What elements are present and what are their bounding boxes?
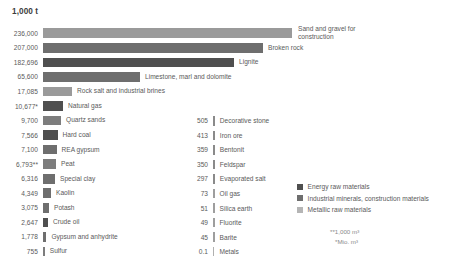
bar xyxy=(43,159,56,169)
bar-value-label: 65,600 xyxy=(0,73,38,80)
bar-value-label: 73 xyxy=(186,190,208,197)
bar-track xyxy=(43,72,140,82)
bar-value-label: 350 xyxy=(186,161,208,168)
bar-category-label: Evaporated salt xyxy=(220,175,266,182)
bar-category-label: Iron ore xyxy=(220,132,243,139)
legend-swatch-icon xyxy=(297,184,303,190)
bar-track xyxy=(43,203,49,213)
bar-row: 182,696Lignite xyxy=(0,55,451,70)
bar-track xyxy=(213,232,215,242)
chart-legend: Energy raw materialsIndustrial minerals,… xyxy=(297,181,429,216)
bar-value-label: 297 xyxy=(186,175,208,182)
bar xyxy=(213,131,215,141)
bar-value-label: 182,696 xyxy=(0,59,38,66)
legend-item: Industrial minerals, construction materi… xyxy=(297,193,429,205)
bar-row: 207,000Broken rock xyxy=(0,41,451,56)
bar-value-label: 3,075 xyxy=(0,204,38,211)
legend-item: Energy raw materials xyxy=(297,181,429,193)
bar-row: 65,600Limestone, marl and dolomite xyxy=(0,70,451,85)
legend-swatch-icon xyxy=(297,207,303,213)
bar-track xyxy=(43,232,46,242)
bar-value-label: 7,100 xyxy=(0,146,38,153)
bar-track xyxy=(43,130,58,140)
bar xyxy=(213,189,215,199)
bar-track xyxy=(213,160,215,170)
bar-row: 350Feldspar xyxy=(186,157,306,172)
bar-track xyxy=(43,28,292,38)
bar-track xyxy=(213,218,215,228)
bar-row: 17,085Rock salt and industrial brines xyxy=(0,84,451,99)
bar-track xyxy=(213,131,215,141)
bar-track xyxy=(213,203,215,213)
bar xyxy=(213,145,215,155)
bar-track xyxy=(43,145,57,155)
bar-row: 413Iron ore xyxy=(186,128,306,143)
bar-category-label: Natural gas xyxy=(68,102,102,110)
legend-label: Energy raw materials xyxy=(308,183,370,190)
bar-category-label: Silica earth xyxy=(220,205,253,212)
chart-container: 1,000 t 236,000Sand and gravel for const… xyxy=(0,0,451,267)
bar xyxy=(213,218,215,228)
bar-row: 49Fluorite xyxy=(186,215,306,230)
bar-category-label: Sulfur xyxy=(50,247,67,255)
bar-value-label: 10,677* xyxy=(0,103,38,110)
bar xyxy=(43,232,46,242)
bar-row: 505Decorative stone xyxy=(186,114,306,129)
bar-track xyxy=(43,218,48,228)
bar-value-label: 755 xyxy=(0,248,38,255)
bar-category-label: Decorative stone xyxy=(220,117,269,124)
bar-value-label: 7,566 xyxy=(0,132,38,139)
bar-value-label: 51 xyxy=(186,205,208,212)
bar xyxy=(43,247,45,257)
bar-track xyxy=(43,159,56,169)
bar-row: 45Barite xyxy=(186,230,306,245)
bar-track xyxy=(43,43,263,53)
bar-category-label: Limestone, marl and dolomite xyxy=(145,73,232,81)
bar-category-label: Sand and gravel for construction xyxy=(298,25,360,41)
bar xyxy=(43,218,48,228)
bar-category-label: Lignite xyxy=(239,58,258,66)
bar xyxy=(213,116,215,126)
bar xyxy=(43,58,234,68)
bar-category-label: Broken rock xyxy=(268,44,303,52)
bar-category-label: Barite xyxy=(220,234,237,241)
chart-unit-title: 1,000 t xyxy=(12,7,38,16)
bar-row: 73Oil gas xyxy=(186,186,306,201)
bar-track xyxy=(213,116,215,126)
bar-track xyxy=(43,87,72,97)
bar-category-label: Hard coal xyxy=(63,131,91,139)
bar-track xyxy=(213,174,215,184)
bar-value-label: 49 xyxy=(186,219,208,226)
bar-category-label: Bentonit xyxy=(220,146,244,153)
bar-category-label: Crude oil xyxy=(53,218,79,226)
bar-category-label: Peat xyxy=(61,160,75,168)
bar-track xyxy=(43,116,61,126)
bar-value-label: 505 xyxy=(186,117,208,124)
bar xyxy=(43,87,72,97)
bar xyxy=(213,232,215,242)
bar-row: 297Evaporated salt xyxy=(186,172,306,187)
bar-track xyxy=(43,58,234,68)
bar-track xyxy=(213,247,214,257)
bar-value-label: 45 xyxy=(186,234,208,241)
bar-category-label: Quartz sands xyxy=(66,116,105,124)
bar-row: 51Silica earth xyxy=(186,201,306,216)
secondary-bar-series: 505Decorative stone413Iron ore359Bentoni… xyxy=(186,114,306,259)
bar-value-label: 413 xyxy=(186,132,208,139)
footnote: *Mio. m³ xyxy=(330,237,359,247)
bar-value-label: 6,793** xyxy=(0,161,38,168)
bar-category-label: Oil gas xyxy=(220,190,241,197)
footnote: **1,000 m³ xyxy=(330,227,359,237)
bar-row: 359Bentonit xyxy=(186,143,306,158)
bar xyxy=(213,203,215,213)
bar xyxy=(43,145,57,155)
chart-footnotes: **1,000 m³*Mio. m³ xyxy=(330,227,359,247)
bar xyxy=(43,28,292,38)
bar-track xyxy=(43,247,45,257)
bar-value-label: 207,000 xyxy=(0,44,38,51)
bar xyxy=(213,174,215,184)
bar-category-label: Kaolin xyxy=(56,189,74,197)
bar-category-label: Potash xyxy=(54,204,75,212)
bar-category-label: Fluorite xyxy=(220,219,242,226)
bar xyxy=(43,174,55,184)
